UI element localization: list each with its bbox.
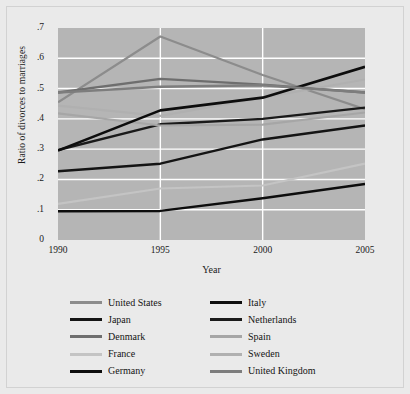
series-line [58,36,365,109]
legend-label: Netherlands [248,315,296,325]
legend-label: Denmark [108,332,145,342]
plot-svg [58,28,365,240]
legend-item[interactable]: Germany [70,363,210,380]
legend-label: Japan [108,315,131,325]
legend-item[interactable]: United Kingdom [210,363,360,380]
y-tick-label: .3 [0,144,44,154]
x-tick-label: 2000 [233,246,293,256]
legend-label: Germany [108,366,145,376]
legend-label: Spain [248,332,271,342]
legend-label: United States [108,298,162,308]
y-tick-label: .1 [0,205,44,215]
legend-label: Sweden [248,349,280,359]
legend-item[interactable]: Japan [70,311,210,328]
legend-swatch-icon [70,301,102,304]
legend-swatch-icon [70,353,102,356]
y-tick-label: .5 [0,84,44,94]
legend-item[interactable]: France [70,346,210,363]
x-tick-label: 1990 [28,246,88,256]
x-tick-label: 1995 [130,246,190,256]
legend-item[interactable]: Spain [210,328,360,345]
y-tick-label: .7 [0,23,44,33]
legend-swatch-icon [210,301,242,304]
series-line [58,164,365,204]
line-chart: Ratio of divorces to marriages .7.6.5.4.… [0,0,410,282]
y-tick-label: .6 [0,53,44,63]
legend-item[interactable]: Italy [210,294,360,311]
legend-label: France [108,349,135,359]
plot-area [58,28,365,240]
y-tick-label: .2 [0,174,44,184]
legend-item[interactable]: Denmark [70,328,210,345]
legend-grid: United StatesItalyJapanNetherlandsDenmar… [70,294,360,380]
legend-item[interactable]: United States [70,294,210,311]
series-lines [58,36,365,211]
legend-item[interactable]: Netherlands [210,311,360,328]
legend-swatch-icon [70,318,102,321]
legend-swatch-icon [210,370,242,373]
legend-label: United Kingdom [248,366,316,376]
series-line [58,108,365,150]
gridlines [58,28,365,240]
legend-swatch-icon [70,335,102,338]
legend-item[interactable]: Sweden [210,346,360,363]
x-axis-label: Year [58,264,365,275]
legend-swatch-icon [70,370,102,373]
legend-swatch-icon [210,318,242,321]
legend-swatch-icon [210,335,242,338]
y-tick-label: 0 [0,235,44,245]
figure: Ratio of divorces to marriages .7.6.5.4.… [0,0,410,394]
legend-label: Italy [248,298,266,308]
legend-swatch-icon [210,353,242,356]
chart-legend: United StatesItalyJapanNetherlandsDenmar… [70,294,360,382]
y-tick-label: .4 [0,114,44,124]
x-tick-label: 2005 [335,246,395,256]
